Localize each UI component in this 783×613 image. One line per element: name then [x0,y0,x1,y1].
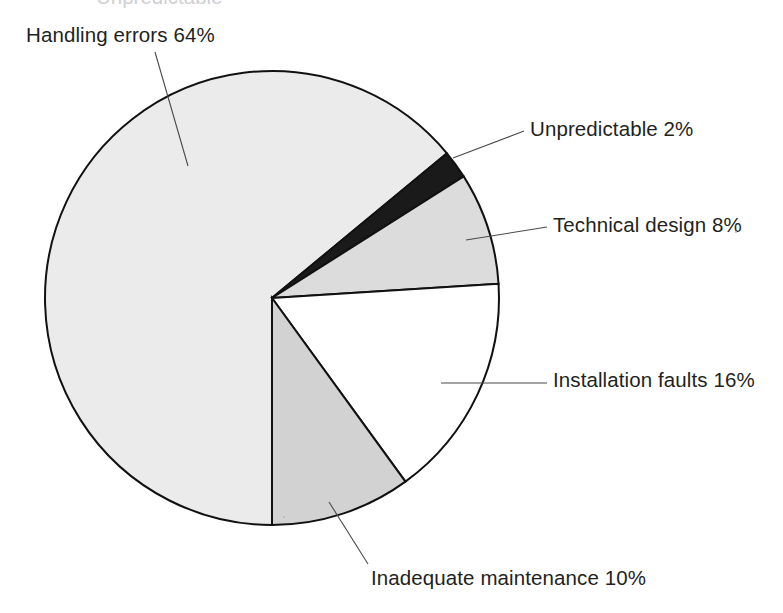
pie-label-unpredictable: Unpredictable 2% [530,118,693,141]
leader-line-unpredictable [453,131,524,158]
scan-speck [735,231,737,233]
scan-speck [283,516,285,518]
pie-label-technical-design: Technical design 8% [553,214,742,237]
pie-label-inadequate-maintenance: Inadequate maintenance 10% [371,567,646,590]
pie-chart-svg [0,0,783,613]
pie-chart-figure: Unpredictable Handling errors 64% Unpred… [0,0,783,613]
pie-label-installation-faults: Installation faults 16% [553,369,755,392]
pie-label-handling-errors: Handling errors 64% [26,24,215,47]
